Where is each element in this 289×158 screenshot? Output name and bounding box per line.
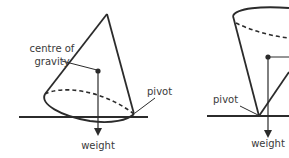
left-figure: centre of gravity pivot weight — [19, 14, 172, 151]
cone-base-back-dashed — [45, 90, 134, 114]
cone-rim-dashed — [236, 23, 289, 38]
weight-label-left: weight — [81, 140, 115, 151]
right-figure: pivot weight — [207, 7, 289, 149]
weight-label-right: weight — [251, 138, 285, 149]
pivot-label-left: pivot — [147, 86, 172, 97]
cone-side-right — [107, 14, 134, 114]
cone-side-right — [259, 72, 289, 116]
pivot-leader-line — [135, 98, 155, 113]
cone-rim-top — [233, 7, 289, 16]
cog-label-line2: gravity — [34, 56, 69, 67]
pivot-label-right: pivot — [213, 94, 238, 105]
pivot-leader-line — [240, 106, 258, 115]
cog-label-line1: centre of — [30, 43, 75, 54]
cone-stability-diagram: centre of gravity pivot weight pivot wei… — [0, 0, 289, 158]
